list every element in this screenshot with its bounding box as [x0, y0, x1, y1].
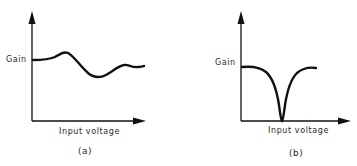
- y-axis-arrow-icon: [238, 11, 245, 24]
- panel-a-y-label: Gain: [6, 55, 27, 64]
- panel-a-caption: (a): [78, 146, 92, 156]
- panel-b-caption: (b): [289, 148, 303, 158]
- x-axis-arrow-icon: [338, 118, 351, 125]
- panel-a-x-label: Input voltage: [59, 127, 120, 136]
- panel-b-y-label: Gain: [215, 58, 236, 67]
- panel-b-x-label: Input voltage: [268, 126, 329, 135]
- panel-a-gain-curve: [33, 52, 144, 77]
- x-axis-arrow-icon: [133, 118, 146, 125]
- y-axis-arrow-icon: [29, 11, 36, 24]
- panel-b-gain-curve: [242, 67, 316, 121]
- diagram-canvas: [0, 0, 357, 166]
- panel-a-axes: [29, 11, 147, 125]
